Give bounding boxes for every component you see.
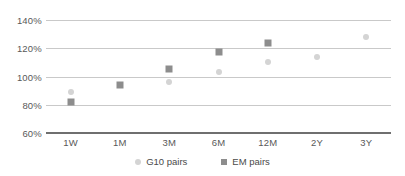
data-point [363, 34, 369, 40]
gridline [46, 105, 391, 106]
x-axis-tick-label: 3M [162, 137, 176, 148]
data-point [68, 89, 74, 95]
x-axis-tick-label: 12M [258, 137, 277, 148]
x-axis-tick-label: 6M [212, 137, 226, 148]
data-point [166, 66, 173, 73]
x-axis-tick-label: 3Y [360, 137, 372, 148]
legend-item-label: G10 pairs [146, 156, 187, 167]
y-axis-tick-label: 120% [0, 43, 42, 54]
data-point [116, 81, 123, 88]
y-axis-tick-label: 140% [0, 15, 42, 26]
gridline [46, 20, 391, 21]
x-axis-tick-label: 1M [113, 137, 127, 148]
y-axis: 60%80%100%120%140% [0, 20, 42, 133]
y-axis-tick-label: 100% [0, 71, 42, 82]
data-point [67, 98, 74, 105]
legend-item[interactable]: G10 pairs [135, 156, 187, 167]
data-point [314, 54, 320, 60]
data-point [216, 69, 222, 75]
y-axis-tick-label: 80% [0, 99, 42, 110]
x-axis-tick-label: 1W [63, 137, 78, 148]
x-axis-tick-label: 2Y [311, 137, 323, 148]
data-point [265, 59, 271, 65]
scatter-chart: 60%80%100%120%140% 1W1M3M6M12M2Y3Y G10 p… [0, 0, 405, 176]
plot-area [46, 20, 391, 133]
legend-item[interactable]: EM pairs [221, 156, 269, 167]
data-point [215, 49, 222, 56]
square-marker-icon [221, 159, 227, 165]
circle-marker-icon [135, 159, 141, 165]
gridline [46, 77, 391, 78]
data-point [166, 79, 172, 85]
chart-legend: G10 pairsEM pairs [0, 156, 405, 167]
y-axis-tick-label: 60% [0, 128, 42, 139]
data-point [264, 39, 271, 46]
legend-item-label: EM pairs [232, 156, 269, 167]
x-axis-line [46, 132, 391, 134]
